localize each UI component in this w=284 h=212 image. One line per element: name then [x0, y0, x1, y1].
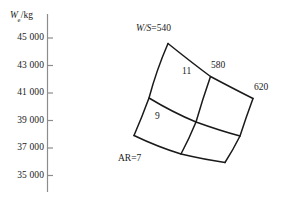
y-tick-label-43000: 43 000 [0, 61, 44, 71]
ws-540-label: W/S=540 [136, 24, 171, 34]
carpet-curve-ws-580 [181, 77, 211, 155]
ws-620-label: 620 [254, 83, 268, 93]
ws-540-symbol: W/S [136, 23, 151, 33]
y-tick-label-41000: 41 000 [0, 88, 44, 98]
carpet-curve-ws-540 [134, 44, 168, 136]
carpet-curve-ar-11 [168, 44, 253, 99]
y-axis-title: We/kg [10, 11, 33, 22]
carpet-curve-ar-7 [134, 136, 225, 163]
y-tick-label-45000: 45 000 [0, 33, 44, 43]
ws-580-label: 580 [211, 61, 225, 71]
y-tick-label-35000: 35 000 [0, 171, 44, 181]
carpet-curve-ws-620 [225, 99, 253, 163]
y-tick-label-37000: 37 000 [0, 143, 44, 153]
carpet-ws-curves [134, 44, 253, 163]
y-axis-subscript: e [17, 16, 20, 23]
ws-540-value: =540 [151, 23, 171, 33]
ar-9-label: 9 [155, 112, 160, 122]
y-axis-ticks [48, 38, 54, 176]
y-tick-label-39000: 39 000 [0, 116, 44, 126]
ar-11-label: 11 [182, 67, 191, 77]
carpet-curve-ar-9 [149, 98, 240, 136]
carpet-plot-figure: We/kg 45 000 43 000 41 000 39 000 37 000… [0, 0, 284, 212]
ar-7-label: AR=7 [118, 154, 141, 164]
y-axis-unit: /kg [21, 10, 33, 20]
